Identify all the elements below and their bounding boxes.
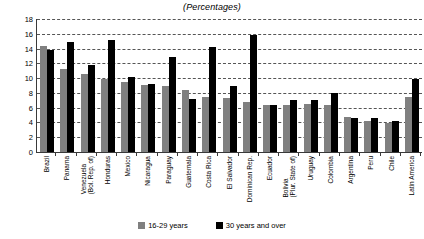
bar-group (219, 19, 239, 152)
y-tick-label: 2 (29, 134, 33, 141)
legend-item-young: 16-29 years (138, 221, 188, 230)
bar-young (81, 74, 88, 152)
x-tick-label: Bolivia (Plur. State of) (279, 156, 299, 218)
x-tick-label: Argentina (340, 156, 360, 218)
bar-old (148, 84, 155, 152)
bar-young (60, 69, 67, 152)
bar-young (141, 85, 148, 152)
legend-label-old: 30 years and over (226, 221, 286, 230)
y-tick-label: 4 (29, 119, 33, 126)
bar-group (260, 19, 280, 152)
legend-swatch-icon-young (138, 222, 145, 229)
bar-group (300, 19, 320, 152)
bar-chart: (Percentages) 024681012141618 BrazilPana… (0, 0, 424, 239)
bar-young (202, 97, 209, 152)
y-tick-label: 10 (25, 75, 33, 82)
legend-item-old: 30 years and over (216, 221, 286, 230)
bar-young (324, 105, 331, 152)
bar-old (311, 100, 318, 152)
bar-young (223, 98, 230, 152)
bar-young (304, 104, 311, 152)
y-tick-label: 16 (25, 30, 33, 37)
bar-young (243, 102, 250, 152)
bar-young (364, 121, 371, 152)
bar-young (182, 90, 189, 152)
bar-old (88, 65, 95, 152)
bar-old (392, 121, 399, 152)
bar-group (341, 19, 361, 152)
bar-old (351, 118, 358, 152)
bar-young (40, 46, 47, 152)
bar-young (344, 117, 351, 152)
x-tick-label: Panama (56, 156, 76, 218)
bar-young (121, 82, 128, 152)
x-tick-label: Nicaragua (137, 156, 157, 218)
bar-old (230, 86, 237, 153)
legend-label-young: 16-29 years (148, 221, 188, 230)
bar-group (361, 19, 381, 152)
bar-old (67, 42, 74, 152)
x-tick-label: Costa Rica (198, 156, 218, 218)
y-tick-label: 0 (29, 149, 33, 156)
bar-group (78, 19, 98, 152)
y-tick-label: 6 (29, 104, 33, 111)
bar-old (169, 57, 176, 152)
chart-title: (Percentages) (0, 2, 424, 12)
bar-group (57, 19, 77, 152)
bar-old (270, 105, 277, 152)
x-tick-label: Guatemala (178, 156, 198, 218)
bar-group (118, 19, 138, 152)
bar-young (162, 86, 169, 153)
bar-old (108, 40, 115, 152)
bar-group (240, 19, 260, 152)
bar-old (128, 77, 135, 152)
x-tick-label: Venezuela (Bol. Rep. of) (77, 156, 97, 218)
x-tick-label: Latin America (401, 156, 421, 218)
bar-group (138, 19, 158, 152)
bar-group (98, 19, 118, 152)
x-tick-label: Brazil (36, 156, 56, 218)
chart-legend: 16-29 years 30 years and over (0, 221, 424, 230)
bar-old (209, 47, 216, 152)
bar-old (290, 100, 297, 152)
bar-groups (37, 19, 422, 152)
bar-young (405, 97, 412, 152)
bar-group (382, 19, 402, 152)
x-tick-label: Peru (360, 156, 380, 218)
x-tick-label: Colombia (320, 156, 340, 218)
bar-group (280, 19, 300, 152)
y-axis-tick-labels: 024681012141618 (16, 19, 33, 152)
bar-group (179, 19, 199, 152)
y-tick-label: 8 (29, 89, 33, 96)
x-tick-label: El Salvador (218, 156, 238, 218)
x-tick-label: Paraguay (158, 156, 178, 218)
bar-old (189, 99, 196, 152)
y-tick-label: 12 (25, 60, 33, 67)
bar-group (402, 19, 422, 152)
y-tick-label: 14 (25, 45, 33, 52)
plot-area (36, 19, 422, 153)
x-tick-label: Chile (381, 156, 401, 218)
x-axis-tick-labels: BrazilPanamaVenezuela (Bol. Rep. of)Hond… (36, 156, 421, 218)
bar-old (47, 50, 54, 152)
x-tick-label: Dominican Rep. (239, 156, 259, 218)
bar-young (385, 123, 392, 152)
y-tick-label: 18 (25, 16, 33, 23)
bar-group (159, 19, 179, 152)
bar-young (283, 105, 290, 152)
bar-young (263, 105, 270, 152)
bar-group (321, 19, 341, 152)
x-tick-label: Mexico (117, 156, 137, 218)
bar-old (331, 93, 338, 152)
x-tick-label: Ecuador (259, 156, 279, 218)
bar-old (371, 118, 378, 152)
bar-group (199, 19, 219, 152)
x-tick-label: Uruguay (299, 156, 319, 218)
bar-old (250, 35, 257, 152)
bar-old (412, 79, 419, 152)
legend-swatch-icon-old (216, 222, 223, 229)
bar-young (101, 79, 108, 152)
x-tick-label: Honduras (97, 156, 117, 218)
bar-group (37, 19, 57, 152)
